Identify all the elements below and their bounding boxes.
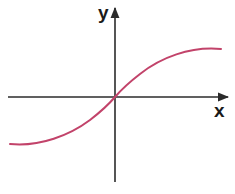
y-axis-label: y — [98, 2, 109, 23]
x-axis-label: x — [214, 100, 225, 121]
function-graph: y x — [0, 0, 235, 194]
